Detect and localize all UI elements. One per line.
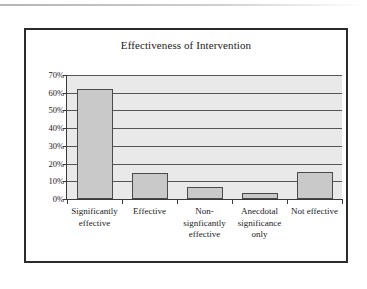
category-axis-tickmark	[122, 200, 123, 204]
bar-series	[67, 75, 342, 199]
category-axis-tickmark	[67, 200, 68, 204]
bar-slot	[287, 75, 342, 199]
bar	[297, 172, 333, 199]
value-axis-tick-label: 20%	[30, 159, 64, 169]
scan-artifact-line	[0, 4, 367, 6]
category-axis-tick-labels: SignificantlyeffectiveEffectiveNon-signf…	[67, 206, 342, 258]
value-axis-tickmark	[63, 146, 67, 147]
value-axis-tickmark	[63, 93, 67, 94]
value-axis-tick-labels: 70%60%50%40%30%20%10%0%	[26, 75, 64, 199]
bar-slot	[122, 75, 177, 199]
value-axis-tick-label: 70%	[30, 70, 64, 80]
category-axis-line	[66, 199, 343, 200]
bar-slot	[177, 75, 232, 199]
category-axis-tickmark	[177, 200, 178, 204]
category-axis-tick-label: Not effective	[279, 206, 350, 218]
category-axis-tickmark	[232, 200, 233, 204]
value-axis-tickmark	[63, 164, 67, 165]
bar	[132, 173, 168, 199]
value-axis-tickmark	[63, 75, 67, 76]
value-axis-tick-label: 0%	[30, 194, 64, 204]
bar	[77, 89, 113, 199]
value-axis-tick-label: 40%	[30, 123, 64, 133]
value-axis-tickmark	[63, 128, 67, 129]
bar-slot	[67, 75, 122, 199]
category-axis-tickmark	[342, 200, 343, 204]
value-axis-tick-label: 50%	[30, 105, 64, 115]
value-axis-tickmark	[63, 110, 67, 111]
value-axis-tick-label: 30%	[30, 141, 64, 151]
value-axis-tick-label: 60%	[30, 88, 64, 98]
category-axis-tickmark	[287, 200, 288, 204]
value-axis-tickmark	[63, 181, 67, 182]
bar	[187, 187, 223, 199]
chart-figure: Effectiveness of Intervention 70%60%50%4…	[24, 28, 348, 263]
chart-title: Effectiveness of Intervention	[26, 39, 346, 51]
bar-slot	[232, 75, 287, 199]
value-axis-tick-label: 10%	[30, 176, 64, 186]
